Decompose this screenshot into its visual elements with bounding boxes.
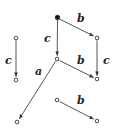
node [95, 119, 99, 123]
edge-label-b: b [77, 12, 85, 25]
node-start [55, 15, 60, 20]
node [95, 77, 99, 81]
node [55, 57, 59, 61]
edge-label-b: b [77, 54, 85, 67]
node [14, 36, 18, 40]
edge-label-c: c [44, 32, 51, 45]
edge-label-b: b [77, 94, 85, 107]
node [55, 98, 59, 102]
edge-label-c: c [103, 54, 110, 67]
node [95, 36, 99, 40]
edge-label-a: a [35, 65, 42, 78]
edge-label-c: c [5, 54, 12, 67]
node [15, 120, 19, 124]
node [14, 78, 18, 82]
edges [16, 19, 97, 119]
graph-diagram: b c c b c a b [0, 0, 115, 132]
